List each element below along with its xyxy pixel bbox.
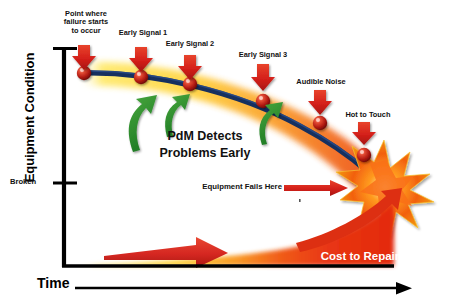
x-axis-title: Time xyxy=(37,275,69,291)
down-arrow-6 xyxy=(352,122,376,145)
pdm-message-line1: PdM Detects xyxy=(130,128,280,145)
callout-early-signal-1: Early Signal 1 xyxy=(105,29,181,37)
equipment-fails-arrow xyxy=(284,180,348,202)
x-axis-arrowhead xyxy=(396,282,412,295)
y-axis-title: Equipment Condition xyxy=(22,43,37,193)
callout-audible-noise: Audible Noise xyxy=(283,78,359,86)
cost-to-repair-label: Cost to Repair xyxy=(305,250,415,262)
down-arrow-4 xyxy=(251,64,275,91)
pdm-message-line2: Problems Early xyxy=(130,145,280,162)
pf-curve-diagram: Equipment Condition Time Broken Point wh… xyxy=(0,0,464,308)
callout-early-signal-3: Early Signal 3 xyxy=(225,51,301,59)
callout-equipment-fails-here: Equipment Fails Here xyxy=(190,183,282,192)
pdm-message: PdM Detects Problems Early xyxy=(130,128,280,161)
y-axis-tick-label-broken: Broken xyxy=(10,178,36,187)
callout-hot-to-touch: Hot to Touch xyxy=(330,111,406,119)
callout-early-signal-2: Early Signal 2 xyxy=(152,40,228,48)
down-arrow-5 xyxy=(308,90,332,115)
